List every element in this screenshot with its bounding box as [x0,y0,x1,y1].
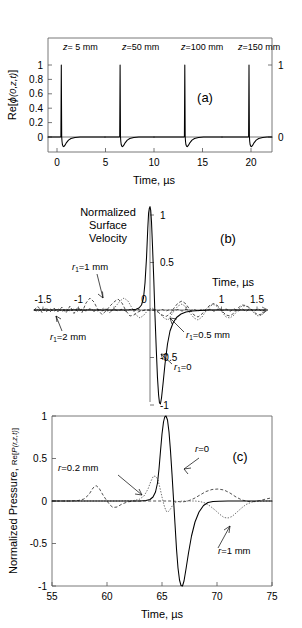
panel-a-right-tick-label-1: 1 [278,60,284,71]
panel-b-xtick-label-15: 1.5 [250,294,264,305]
panel-c-xtick-label-75: 75 [266,591,278,602]
panel-c: -1 -0.5 0 0.5 1 55 60 65 70 75 Time, µs … [0,406,302,628]
panel-a-curve-z5 [48,65,105,147]
panel-b-tag: (b) [220,231,236,246]
panel-a-ytick-label-1: 1 [37,60,43,71]
panel-c-ytick-label-0: 0 [41,496,47,507]
panel-a-ytick-label-02: 0.2 [29,117,43,128]
panel-a-xtick-label-5: 5 [103,157,109,168]
panel-c-annotation-r1mm: r=1 mm [218,545,251,556]
panel-c-xtick-label-60: 60 [101,591,113,602]
panel-c-curve-r02mm [52,476,272,518]
panel-b-xtick-label-neg1: -1 [74,294,83,305]
panel-c-plot: -1 -0.5 0 0.5 1 55 60 65 70 75 Time, µs … [0,406,302,628]
panel-b-ytick-label-05: 0.5 [160,257,174,268]
panel-b-title-line2: Surface [89,219,127,231]
panel-c-annotation-r02mm: r=0.2 mm [58,462,98,473]
panel-a-curve-z50 [105,65,154,147]
panel-a-annotation-z100: z=100 mm [180,42,223,52]
panel-c-ytick-label-05: 0.5 [33,453,47,464]
panel-c-tag: (c) [232,449,247,464]
panel-b-xtick-label-0: 0 [141,294,147,305]
panel-a-ytick-label-04: 0.4 [29,103,43,114]
panel-a-yaxis-title: Re[ϕ(0,z,t)] [6,70,18,121]
panel-c-curve-r1mm [52,486,272,508]
panel-c-yaxis-title: Normalized Pressure, Re[P(r,z,t)] [7,428,19,574]
panel-b-annotation-r05mm: r1=0.5 mm [186,329,230,341]
figure-container: 1 0.8 0.6 0.4 0.2 0 1 0 0 5 10 15 20 Tim… [0,0,302,628]
panel-a-curve-z100 [154,65,222,147]
panel-c-xtick-label-55: 55 [46,591,58,602]
panel-c-xtick-label-70: 70 [211,591,223,602]
panel-b-title-line3: Velocity [89,232,127,244]
panel-a-ytick-marks [48,65,52,137]
panel-a-tag: (a) [197,90,213,105]
panel-a: 1 0.8 0.6 0.4 0.2 0 1 0 0 5 10 15 20 Tim… [0,0,302,200]
panel-a-ytick-label-0: 0 [37,132,43,143]
panel-a-xtick-label-0: 0 [54,157,60,168]
panel-a-xaxis-title: Time, µs [133,174,175,186]
panel-a-plot: 1 0.8 0.6 0.4 0.2 0 1 0 0 5 10 15 20 Tim… [0,0,302,200]
panel-b-plot: 1 0.5 -0.5 -1 -1.5 -1 0 1 1.5 Time, µs N… [0,198,302,410]
panel-c-leader-r02mm [118,475,142,495]
panel-a-xtick-label-15: 15 [197,157,209,168]
panel-c-xtick-label-65: 65 [156,591,168,602]
panel-a-annotation-z150: z=150 mm [237,42,280,52]
panel-c-ytick-label-neg1: -1 [38,581,47,592]
panel-b-leader-r1mm [97,274,103,298]
panel-a-annotation-z5: z= 5 mm [62,42,98,52]
panel-a-right-tick-label-0: 0 [278,132,284,143]
panel-b: 1 0.5 -0.5 -1 -1.5 -1 0 1 1.5 Time, µs N… [0,198,302,410]
panel-c-ytick-label-1: 1 [41,411,47,422]
panel-b-annotation-r2mm: r1=2 mm [50,331,86,343]
panel-a-ytick-label-06: 0.6 [29,88,43,99]
panel-a-annotation-z50: z=50 mm [121,42,159,52]
panel-b-leader-r2mm [56,316,62,331]
panel-b-ytick-label-1: 1 [160,210,166,221]
panel-b-annotation-r0: r1=0 [174,361,192,373]
panel-a-xtick-label-10: 10 [148,157,160,168]
panel-a-xtick-label-20: 20 [245,157,257,168]
panel-c-xtick-marks [52,582,272,586]
panel-b-annotation-r1mm: r1=1 mm [72,261,108,273]
panel-a-axes [48,38,272,152]
panel-c-xaxis-title: Time, µs [141,608,183,620]
panel-b-xtick-label-1: 1 [219,294,225,305]
panel-c-annotation-r0: r=0 [195,443,209,454]
panel-a-curve-z150 [222,65,272,147]
panel-a-right-tick-marks [268,65,272,137]
panel-c-ytick-label-neg05: -0.5 [30,538,48,549]
panel-a-ytick-label-08: 0.8 [29,74,43,85]
panel-b-title-line1: Normalized [80,206,136,218]
panel-c-curve-r0 [52,416,272,586]
panel-c-leader-r0 [184,458,199,474]
panel-b-xtick-label-neg15: -1.5 [34,294,52,305]
panel-a-curves [48,65,272,147]
panel-a-xtick-marks [57,148,251,152]
panel-b-xaxis-title: Time, µs [212,276,254,288]
